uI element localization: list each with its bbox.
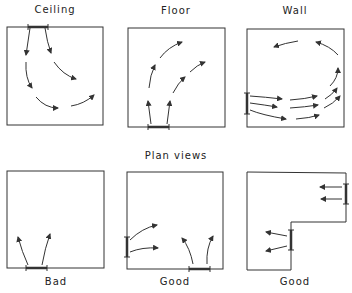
- panel-ceiling: [7, 24, 103, 125]
- diagram-canvas: [0, 0, 352, 293]
- panel-wall: [244, 29, 344, 127]
- panel-floor: [128, 28, 225, 130]
- panel-plan-good-2: [247, 172, 349, 270]
- panel-plan-good-1: [124, 172, 223, 272]
- panel-plan-bad: [7, 171, 104, 271]
